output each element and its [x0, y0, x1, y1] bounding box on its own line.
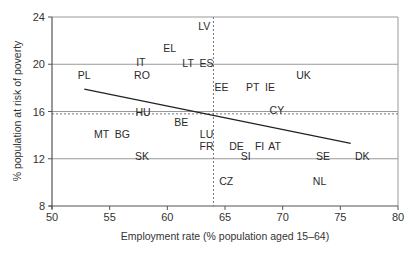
x-tick-label: 50 [46, 211, 58, 223]
x-axis-title: Employment rate (% population aged 15–64… [121, 230, 329, 242]
point-label-at: AT [268, 140, 281, 152]
point-label-ie: IE [265, 81, 275, 93]
point-label-nl: NL [313, 175, 327, 187]
point-label-pl: PL [78, 69, 91, 81]
point-label-be: BE [174, 116, 188, 128]
point-label-cz: CZ [219, 175, 234, 187]
point-label-it: IT [136, 56, 146, 68]
point-label-sk: SK [135, 150, 149, 162]
point-label-mt: MT [94, 128, 110, 140]
x-tick-label: 80 [392, 211, 404, 223]
point-label-fi: FI [255, 140, 264, 152]
y-tick-label: 8 [39, 200, 45, 212]
x-tick-label: 60 [161, 211, 173, 223]
x-tick-label: 75 [334, 211, 346, 223]
point-label-lv: LV [198, 20, 210, 32]
y-tick-label: 24 [33, 11, 45, 23]
point-label-cy: CY [270, 104, 285, 116]
y-tick-label: 12 [33, 153, 45, 165]
x-tick-label: 65 [219, 211, 231, 223]
point-label-bg: BG [115, 128, 130, 140]
y-axis-title: % population at risk of poverty [11, 40, 23, 181]
point-label-uk: UK [296, 69, 311, 81]
point-label-ro: RO [134, 69, 150, 81]
point-label-pt: PT [246, 81, 260, 93]
scatter-chart: 81216202450556065707580 LVELITLTESPLROUK… [0, 0, 414, 254]
point-label-fr: FR [200, 140, 214, 152]
point-label-ee: EE [215, 81, 229, 93]
y-tick-label: 20 [33, 58, 45, 70]
point-label-lu: LU [200, 128, 213, 140]
point-label-el: EL [163, 42, 176, 54]
point-label-dk: DK [355, 150, 370, 162]
point-label-hu: HU [136, 106, 151, 118]
x-tick-label: 55 [104, 211, 116, 223]
point-label-se: SE [316, 150, 330, 162]
point-label-si: SI [241, 150, 251, 162]
country-labels: LVELITLTESPLROUKEEPTIEHUCYBEMTBGLUFRDEFI… [78, 20, 370, 187]
point-label-lt: LT [182, 57, 194, 69]
x-tick-label: 70 [277, 211, 289, 223]
point-label-es: ES [200, 57, 214, 69]
y-tick-label: 16 [33, 106, 45, 118]
